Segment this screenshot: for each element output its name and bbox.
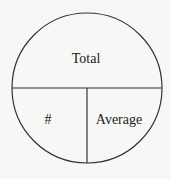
total-label: Total — [72, 51, 101, 66]
average-label: Average — [96, 112, 142, 127]
split-circle-diagram: Total # Average — [0, 0, 170, 179]
count-label: # — [45, 112, 52, 127]
